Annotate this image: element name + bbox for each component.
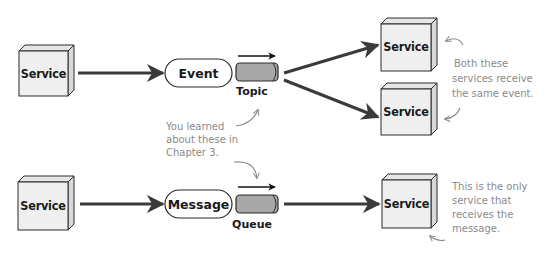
- note-text: You learned about these in Chapter 3.: [165, 121, 241, 158]
- service-box-bottom-consumer: Service: [382, 174, 437, 228]
- note-text: This is the only service that receives t…: [451, 181, 531, 234]
- note-both-services: Both these services receive the same eve…: [445, 39, 536, 119]
- event-label: Event: [178, 66, 218, 81]
- arrow-topic-to-consumer-2: [284, 80, 378, 117]
- note-chapter-3: You learned about these in Chapter 3.: [165, 110, 258, 178]
- message-pill: Message: [165, 190, 232, 218]
- service-label: Service: [384, 196, 430, 211]
- note-arrow-to-topic-icon: [236, 110, 258, 126]
- service-box-top-consumer-2: Service: [381, 83, 437, 135]
- note-arrow-up-icon: [446, 39, 463, 45]
- event-vs-message-diagram: Service Event Topic Service Service Both…: [0, 0, 545, 257]
- service-box-bottom-producer: Service: [18, 176, 74, 230]
- note-arrow-down-icon: [445, 108, 460, 119]
- note-arrow-to-queue-icon: [234, 162, 257, 178]
- service-box-top-producer: Service: [19, 45, 74, 96]
- service-label: Service: [21, 66, 67, 81]
- topic-cylinder: Topic: [236, 56, 278, 98]
- message-label: Message: [168, 197, 230, 212]
- note-arrow-left-icon: [430, 236, 445, 241]
- arrow-topic-to-consumer-1: [284, 45, 378, 73]
- topic-label: Topic: [236, 85, 268, 98]
- box-top-face: [19, 45, 74, 51]
- box-side-face: [68, 45, 74, 96]
- service-label: Service: [383, 39, 429, 54]
- service-box-top-consumer-1: Service: [381, 18, 437, 71]
- queue-label: Queue: [232, 218, 272, 231]
- queue-cylinder: Queue: [232, 187, 278, 231]
- event-pill: Event: [165, 59, 232, 87]
- service-label: Service: [20, 198, 66, 213]
- note-only-service: This is the only service that receives t…: [430, 181, 531, 241]
- service-label: Service: [383, 104, 429, 119]
- note-text: Both these services receive the same eve…: [452, 58, 536, 99]
